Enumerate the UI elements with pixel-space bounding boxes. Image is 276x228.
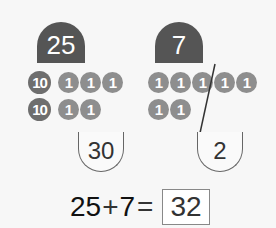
equation-op: + — [102, 190, 118, 224]
equation: 25+7= — [70, 190, 153, 224]
answer-box[interactable]: 32 — [162, 189, 210, 225]
equation-equals: = — [137, 190, 153, 224]
equation-b: 7 — [120, 190, 136, 224]
divider-stroke — [200, 64, 215, 133]
equation-a: 25 — [70, 190, 101, 224]
